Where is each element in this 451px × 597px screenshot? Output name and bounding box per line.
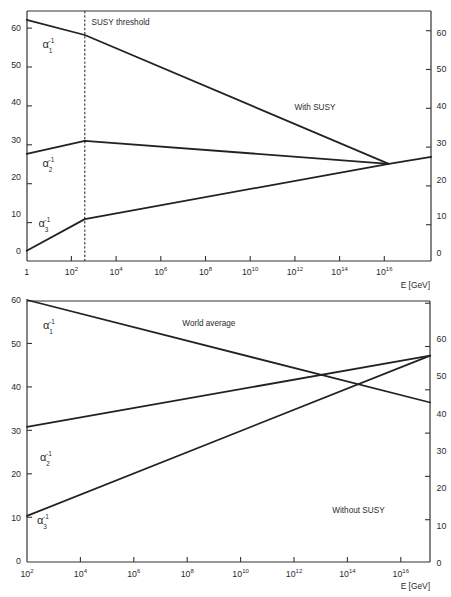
x-tick-label: 1016 — [376, 266, 393, 277]
x-tick-label-base: 10 — [286, 569, 296, 579]
y-tick-label-right: 0 — [437, 248, 442, 258]
y-tick-label-right: 40 — [437, 101, 447, 111]
y-tick-label-right: 50 — [437, 64, 447, 74]
bottom-series-label-alpha2-inverse: α -1 2 — [40, 446, 55, 468]
x-tick-label: 106 — [127, 568, 141, 579]
y-tick-label-left: 0 — [16, 246, 21, 256]
x-tick-label-base: 1 — [24, 267, 29, 277]
x-tick-label: 1 — [24, 267, 29, 277]
y-tick-label-left: 20 — [11, 469, 21, 479]
top-series-label-alpha1-inverse: α -1 1 — [43, 33, 58, 55]
x-tick-label-exponent: 10 — [252, 266, 259, 272]
bottom-series-label-alpha1-inverse: α -1 1 — [43, 314, 58, 336]
x-tick-label-exponent: 12 — [296, 568, 303, 574]
coupling-unification-figure: 0102030405060010203040506011021041061081… — [0, 0, 451, 597]
y-tick-label-left: 50 — [11, 339, 21, 349]
y-tick-label-right: 60 — [437, 334, 447, 344]
y-tick-label-left: 60 — [11, 295, 21, 305]
x-tick-label: 102 — [20, 568, 34, 579]
top-plot: 0102030405060010203040506011021041061081… — [11, 11, 446, 290]
y-tick-label-right: 0 — [437, 558, 442, 568]
x-tick-label-base: 10 — [181, 569, 191, 579]
x-tick-label-exponent: 8 — [190, 568, 194, 574]
without-susy-annotation: Without SUSY — [332, 506, 385, 515]
x-tick-label-base: 10 — [127, 569, 137, 579]
top-series-alpha2-inverse — [27, 141, 389, 164]
x-tick-label: 104 — [110, 266, 124, 277]
x-tick-label-exponent: 14 — [349, 568, 356, 574]
x-tick-label: 1014 — [339, 568, 356, 579]
y-tick-label-left: 20 — [11, 172, 21, 182]
x-tick-label-base: 10 — [154, 267, 164, 277]
x-tick-label-base: 10 — [74, 569, 84, 579]
x-tick-label-exponent: 16 — [402, 568, 409, 574]
label-subscript: 2 — [46, 460, 50, 467]
x-tick-label: 1012 — [287, 266, 304, 277]
x-tick-label: 106 — [154, 266, 168, 277]
label-superscript: -1 — [46, 450, 52, 457]
y-tick-label-left: 40 — [11, 382, 21, 392]
label-superscript: -1 — [49, 318, 55, 325]
x-tick-label: 108 — [199, 266, 213, 277]
y-tick-label-left: 30 — [11, 426, 21, 436]
label-superscript: -1 — [49, 37, 55, 44]
x-tick-label: 104 — [74, 568, 88, 579]
x-tick-label: 1014 — [331, 266, 348, 277]
top-series-label-alpha3-inverse: α -1 3 — [39, 212, 54, 234]
y-tick-label-left: 40 — [11, 97, 21, 107]
y-tick-label-right: 10 — [437, 211, 447, 221]
x-tick-label: 1010 — [242, 266, 259, 277]
label-superscript: -1 — [49, 156, 55, 163]
y-tick-label-left: 30 — [11, 135, 21, 145]
label-superscript: -1 — [43, 513, 49, 520]
top-series-alpha3-inverse — [27, 157, 432, 251]
label-subscript: 3 — [45, 226, 49, 233]
x-tick-label-base: 10 — [232, 569, 242, 579]
x-tick-label-exponent: 14 — [341, 266, 348, 272]
x-tick-label-base: 10 — [376, 267, 386, 277]
label-subscript: 2 — [49, 166, 53, 173]
x-tick-label: 1016 — [393, 568, 410, 579]
x-tick-label-base: 10 — [287, 267, 297, 277]
y-tick-label-left: 10 — [11, 513, 21, 523]
x-tick-label-base: 10 — [199, 267, 209, 277]
y-tick-label-right: 10 — [437, 521, 447, 531]
y-tick-label-right: 30 — [437, 138, 447, 148]
world-average-annotation: World average — [182, 319, 236, 328]
y-tick-label-left: 60 — [11, 23, 21, 33]
y-tick-label-right: 20 — [437, 175, 447, 185]
x-tick-label-base: 10 — [393, 569, 403, 579]
x-tick-label: 1012 — [286, 568, 303, 579]
x-tick-label-base: 10 — [110, 267, 120, 277]
x-tick-label-exponent: 8 — [209, 266, 213, 272]
x-tick-label: 1010 — [232, 568, 249, 579]
x-tick-label-exponent: 4 — [119, 266, 123, 272]
y-tick-label-right: 60 — [437, 28, 447, 38]
bottom-plot: 0102030405060010203040506010210410610810… — [11, 295, 446, 591]
bottom-x-axis-title: E [GeV] — [401, 581, 430, 591]
y-tick-label-left: 10 — [11, 209, 21, 219]
label-subscript: 1 — [49, 47, 53, 54]
x-tick-label-exponent: 4 — [84, 568, 88, 574]
y-tick-label-right: 30 — [437, 446, 447, 456]
x-tick-label: 108 — [181, 568, 195, 579]
x-tick-label-exponent: 10 — [242, 568, 249, 574]
top-plot-marks: 0102030405060010203040506011021041061081… — [11, 11, 446, 277]
label-subscript: 1 — [49, 328, 53, 335]
y-tick-label-left: 50 — [11, 60, 21, 70]
x-tick-label: 102 — [65, 266, 79, 277]
x-tick-label-base: 10 — [242, 267, 252, 277]
bottom-plot-marks: 0102030405060010203040506010210410610810… — [11, 295, 446, 578]
x-tick-label-exponent: 16 — [386, 266, 393, 272]
x-tick-label-exponent: 2 — [75, 266, 79, 272]
top-x-axis-title: E [GeV] — [401, 280, 430, 290]
top-series-label-alpha2-inverse: α -1 2 — [43, 152, 58, 174]
y-tick-label-right: 20 — [437, 483, 447, 493]
bottom-series-alpha1-inverse — [27, 300, 430, 403]
x-tick-label-exponent: 2 — [30, 568, 34, 574]
x-tick-label-base: 10 — [331, 267, 341, 277]
bottom-series-alpha3-inverse — [27, 356, 430, 516]
y-tick-label-right: 50 — [437, 371, 447, 381]
susy-threshold-label: SUSY threshold — [92, 18, 151, 27]
y-tick-label-right: 40 — [437, 409, 447, 419]
